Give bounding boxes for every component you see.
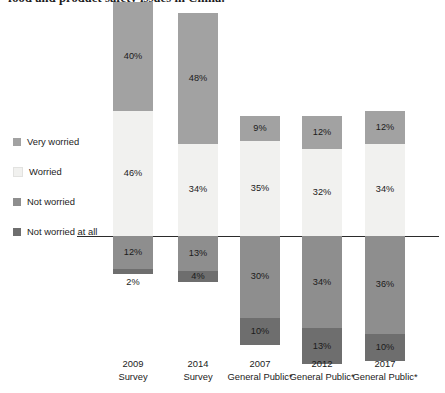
bar-group[interactable]: 40%46%12%2% [113, 0, 153, 393]
segment-value-label: 48% [189, 74, 207, 83]
legend-label: Worried [29, 166, 62, 177]
bar-segment[interactable]: 10% [240, 318, 280, 345]
bar-segment[interactable]: 9% [240, 116, 280, 140]
bar-segment[interactable]: 46% [113, 111, 153, 236]
bar-segment[interactable]: 34% [178, 144, 218, 236]
legend-swatch-icon [13, 138, 21, 146]
legend-swatch-icon [13, 228, 21, 236]
segment-value-label: 10% [376, 343, 394, 352]
bar-segment[interactable]: 32% [302, 149, 342, 236]
segment-value-label: 34% [189, 185, 207, 194]
segment-value-label: 40% [124, 52, 142, 61]
bar-segment[interactable]: 35% [240, 141, 280, 236]
category-year: 2017 [337, 358, 433, 371]
segment-value-label: 34% [376, 185, 394, 194]
segment-value-label: 12% [124, 248, 142, 257]
bar-segment[interactable]: 34% [365, 144, 405, 236]
bar-segment[interactable]: 34% [302, 236, 342, 328]
legend-label: Very worried [27, 136, 79, 147]
bar-segment[interactable]: 4% [178, 271, 218, 282]
bar-segment[interactable]: 12% [365, 111, 405, 144]
segment-value-label: 13% [189, 249, 207, 258]
legend-item-worried[interactable]: Worried [13, 166, 123, 177]
segment-value-label: 13% [313, 342, 331, 351]
bar-segment[interactable]: 48% [178, 13, 218, 144]
bar-segment[interactable]: 12% [302, 116, 342, 149]
bar-group[interactable]: 12%32%34%13% [302, 0, 342, 393]
segment-value-label: 34% [313, 278, 331, 287]
bar-group[interactable]: 12%34%36%10% [365, 0, 405, 393]
category-group: General Public* [337, 371, 433, 384]
legend-swatch-icon [13, 198, 21, 206]
x-axis-category-label: 2017General Public* [337, 358, 433, 383]
legend-swatch-icon [13, 167, 23, 177]
segment-value-label: 10% [251, 327, 269, 336]
legend-item-very-worried[interactable]: Very worried [13, 136, 123, 147]
chart-legend: Very worriedWorriedNot worriedNot worrie… [13, 136, 123, 256]
stacked-bar-chart: food and product safety issues in China.… [0, 0, 445, 393]
bar-group[interactable]: 48%34%13%4% [178, 0, 218, 393]
bar-segment[interactable]: 30% [240, 236, 280, 318]
segment-value-label: 32% [313, 188, 331, 197]
bar-segment[interactable]: 12% [113, 236, 153, 269]
segment-value-label: 12% [376, 123, 394, 132]
segment-value-label: 35% [251, 184, 269, 193]
bar-segment[interactable]: 36% [365, 236, 405, 334]
segment-value-label: 4% [191, 272, 204, 281]
segment-value-label: 9% [253, 124, 266, 133]
segment-value-label: 30% [251, 272, 269, 281]
bar-segment[interactable] [113, 269, 153, 274]
legend-item-not-worried[interactable]: Not worried [13, 196, 123, 207]
bar-segment[interactable]: 40% [113, 2, 153, 111]
bar-segment[interactable]: 13% [178, 236, 218, 271]
bar-group[interactable]: 9%35%30%10% [240, 0, 280, 393]
segment-value-label: 46% [124, 169, 142, 178]
segment-value-label: 36% [376, 280, 394, 289]
legend-label: Not worried [27, 196, 75, 207]
segment-value-label: 2% [113, 277, 153, 287]
segment-value-label: 12% [313, 128, 331, 137]
